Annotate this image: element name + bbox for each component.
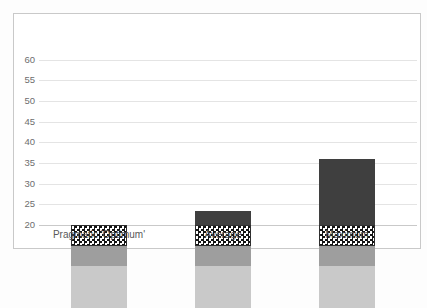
gridline (39, 60, 417, 61)
bar-segment-top-segment-dark-gray (195, 211, 251, 225)
y-axis-tick-label: 50 (14, 96, 35, 106)
y-axis-tick-label: 20 (14, 220, 35, 230)
y-axis-tick-label: 35 (14, 158, 35, 168)
gridline (39, 122, 417, 123)
bar-segment-bottom-segment-light-gray (319, 266, 375, 307)
x-axis-category-label: Maximum (325, 229, 368, 240)
y-axis-tick-label: 55 (14, 75, 35, 85)
gridline (39, 80, 417, 81)
bar-segment-second-segment-medium-gray (71, 246, 127, 267)
bar-segment-bottom-segment-light-gray (71, 266, 127, 307)
bar-segment-second-segment-medium-gray (319, 246, 375, 267)
gridline (39, 101, 417, 102)
x-axis-category-label: Pragmatic 'Optimum' (53, 229, 145, 240)
bar-segment-top-segment-dark-gray (319, 159, 375, 225)
y-axis-tick-label: 45 (14, 117, 35, 127)
bar-segment-second-segment-medium-gray (195, 246, 251, 267)
x-axis-category-label: Average (204, 229, 241, 240)
chart: 202530354045505560 Pragmatic 'Optimum'Av… (13, 13, 421, 249)
y-axis-tick-label: 40 (14, 137, 35, 147)
y-axis-tick-label: 60 (14, 55, 35, 65)
y-axis-tick-label: 30 (14, 179, 35, 189)
bar-segment-bottom-segment-light-gray (195, 266, 251, 307)
gridline (39, 142, 417, 143)
y-axis-tick-label: 25 (14, 199, 35, 209)
